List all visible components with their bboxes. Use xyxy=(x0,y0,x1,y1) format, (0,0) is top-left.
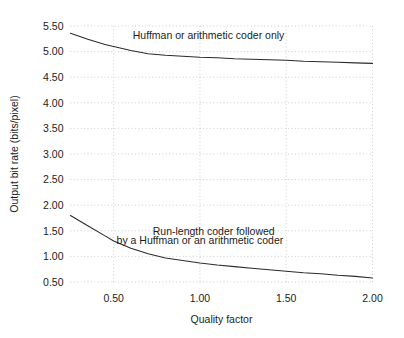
y-tick-label: 3.00 xyxy=(43,148,64,160)
chart-figure: 0.501.001.502.002.503.003.504.004.505.00… xyxy=(0,0,404,338)
y-tick-label: 0.50 xyxy=(43,276,64,288)
y-tick-label: 1.50 xyxy=(43,225,64,237)
x-axis-tick-labels: 0.501.001.502.00 xyxy=(103,292,382,304)
y-tick-label: 3.50 xyxy=(43,122,64,134)
x-tick-label: 2.00 xyxy=(362,292,383,304)
y-tick-label: 4.00 xyxy=(43,97,64,109)
y-tick-label: 4.50 xyxy=(43,71,64,83)
y-tick-label: 2.50 xyxy=(43,173,64,185)
annotation-upper-label: Huffman or arithmetic coder only xyxy=(133,29,285,41)
y-tick-label: 5.50 xyxy=(43,20,64,32)
y-tick-label: 5.00 xyxy=(43,45,64,57)
y-axis-tick-labels: 0.501.001.502.002.503.003.504.004.505.00… xyxy=(43,20,64,288)
x-axis-title: Quality factor xyxy=(191,313,253,325)
annotation-lower-label-line2: by a Huffman or an arithmetic coder xyxy=(117,234,284,246)
x-tick-label: 1.50 xyxy=(276,292,297,304)
line-chart: 0.501.001.502.002.503.003.504.004.505.00… xyxy=(0,0,404,338)
y-tick-label: 1.00 xyxy=(43,250,64,262)
y-tick-label: 2.00 xyxy=(43,199,64,211)
y-axis-title: Output bit rate (bits/pixel) xyxy=(8,95,20,212)
x-tick-label: 0.50 xyxy=(103,292,124,304)
x-tick-label: 1.00 xyxy=(190,292,211,304)
series-annotations: Huffman or arithmetic coder onlyRun-leng… xyxy=(117,29,286,246)
